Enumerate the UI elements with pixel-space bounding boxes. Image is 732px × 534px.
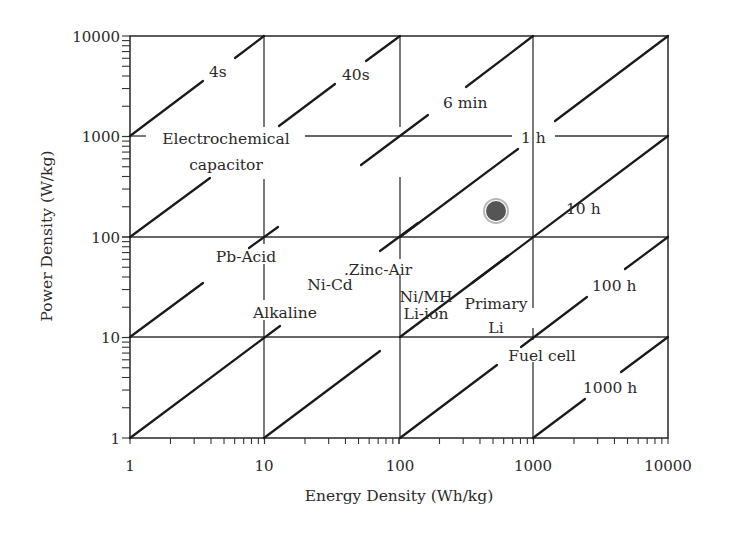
label-ni-mh: Ni/MH [399, 288, 452, 306]
label-fuel-cell: Fuel cell [508, 347, 576, 365]
energy-power-chart: 10000 1000 100 10 1 1 10 100 1000 10000 … [0, 0, 732, 534]
line-1h-d [555, 36, 668, 121]
y-axis-ticks [122, 36, 130, 438]
x-axis-ticks [130, 438, 668, 444]
label-4s: 4s [209, 63, 227, 81]
x-tick-1: 1 [125, 457, 135, 475]
x-tick-100: 100 [386, 457, 415, 475]
line-40s-b [279, 84, 335, 126]
y-tick-10: 10 [101, 329, 120, 347]
data-point-dot [486, 201, 506, 221]
label-alkaline: Alkaline [252, 304, 317, 322]
x-tick-labels: 1 10 100 1000 10000 [125, 457, 692, 475]
label-1000h: 1000 h [583, 379, 637, 397]
y-tick-1: 1 [110, 430, 120, 448]
y-axis-title: Power Density (W/kg) [38, 151, 56, 322]
y-tick-100: 100 [91, 229, 120, 247]
label-li-ion: Li-ion [404, 305, 449, 323]
line-1000h-b [621, 337, 668, 372]
y-tick-1000: 1000 [82, 128, 120, 146]
line-100h-a [400, 365, 497, 438]
line-1000h-a [533, 399, 585, 438]
line-10h-a [264, 351, 380, 438]
label-capacitor: capacitor [189, 156, 263, 174]
label-primary: Primary [465, 295, 528, 313]
x-tick-1000: 1000 [514, 457, 552, 475]
label-zinc-air: .Zinc-Air [344, 261, 413, 279]
line-6min-c [361, 115, 428, 165]
line-40s-a [130, 178, 210, 237]
y-tick-labels: 10000 1000 100 10 1 [72, 28, 120, 448]
x-tick-10000: 10000 [644, 457, 692, 475]
line-4s-upper [235, 36, 264, 58]
line-100h-c [625, 237, 668, 269]
line-4s-lower [130, 81, 203, 136]
line-6min-a [130, 283, 203, 337]
x-axis-title: Energy Density (Wh/kg) [305, 487, 493, 505]
line-1h-c [400, 149, 518, 237]
label-1h: 1 h [521, 129, 546, 147]
line-1h-a [130, 326, 280, 438]
line-6min-d [466, 36, 533, 87]
label-100h: 100 h [592, 277, 637, 295]
label-6min: 6 min [443, 94, 487, 112]
label-pb-acid: Pb-Acid [216, 248, 276, 266]
battery-type-labels: Electrochemical capacitor Pb-Acid Ni-Cd … [162, 130, 576, 365]
label-10h: 10 h [566, 200, 601, 218]
label-40s: 40s [342, 66, 370, 84]
x-tick-10: 10 [254, 457, 273, 475]
y-tick-10000: 10000 [72, 28, 120, 46]
label-li: Li [488, 319, 503, 337]
line-40s-c [366, 36, 400, 61]
label-electrochemical: Electrochemical [162, 130, 290, 148]
